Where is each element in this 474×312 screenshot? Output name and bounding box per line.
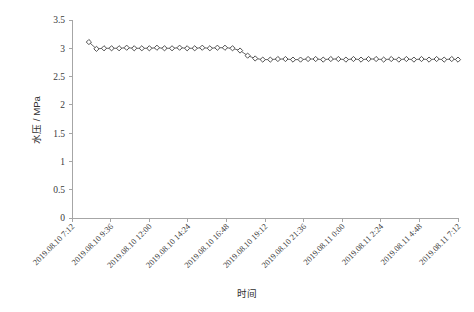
data-point-marker	[192, 46, 197, 51]
data-point-marker	[343, 57, 348, 62]
data-point-marker	[396, 57, 401, 62]
data-point-marker	[162, 46, 167, 51]
y-axis-title: 水压 / MPa	[31, 95, 42, 143]
data-point-marker	[245, 53, 250, 58]
y-tick-label: 3	[60, 44, 65, 54]
x-axis-title: 时间	[237, 288, 257, 299]
data-point-marker	[139, 46, 144, 51]
y-tick-label: 0	[60, 213, 65, 223]
data-point-marker	[268, 57, 273, 62]
data-point-marker	[374, 56, 379, 61]
data-point-marker	[200, 45, 205, 50]
series-line-水压	[89, 42, 458, 60]
data-point-marker	[411, 57, 416, 62]
y-tick-label: 1	[60, 157, 65, 167]
data-point-marker	[215, 45, 220, 50]
data-point-marker	[230, 46, 235, 51]
data-point-marker	[124, 45, 129, 50]
data-point-marker	[260, 57, 265, 62]
data-point-marker	[109, 46, 114, 51]
data-point-marker	[185, 46, 190, 51]
data-point-marker	[351, 56, 356, 61]
data-point-marker	[389, 56, 394, 61]
data-point-marker	[419, 56, 424, 61]
y-tick-label: 2	[60, 100, 65, 110]
chart-figure: 00.511.522.533.5 2019.08.10 7:122019.08.…	[0, 0, 474, 312]
data-point-marker	[366, 56, 371, 61]
y-tick-label: 1.5	[53, 129, 65, 139]
data-point-marker	[290, 57, 295, 62]
data-point-marker	[449, 56, 454, 61]
data-point-marker	[358, 57, 363, 62]
data-point-marker	[336, 56, 341, 61]
data-point-marker	[426, 57, 431, 62]
data-point-marker	[275, 56, 280, 61]
data-point-marker	[381, 57, 386, 62]
y-axis: 00.511.522.533.5	[53, 15, 72, 223]
data-point-marker	[442, 57, 447, 62]
data-point-marker	[207, 46, 212, 51]
data-point-marker	[298, 57, 303, 62]
data-point-marker	[154, 45, 159, 50]
data-point-marker	[321, 57, 326, 62]
hydraulic-pressure-line-chart: 00.511.522.533.5 2019.08.10 7:122019.08.…	[0, 0, 474, 312]
data-point-marker	[306, 56, 311, 61]
x-axis: 2019.08.10 7:122019.08.10 9:362019.08.10…	[31, 218, 462, 270]
data-point-marker	[132, 46, 137, 51]
data-point-marker	[283, 56, 288, 61]
data-point-marker	[313, 56, 318, 61]
data-point-marker	[222, 45, 227, 50]
data-point-marker	[253, 56, 258, 61]
data-point-marker	[169, 46, 174, 51]
data-point-marker	[101, 46, 106, 51]
data-point-marker	[177, 45, 182, 50]
data-point-marker	[117, 46, 122, 51]
data-series	[86, 39, 460, 62]
y-tick-label: 3.5	[53, 15, 65, 25]
data-point-marker	[328, 56, 333, 61]
y-tick-label: 2.5	[53, 72, 65, 82]
x-tick-label: 2019.08.11 7:12	[418, 222, 463, 267]
data-point-marker	[434, 56, 439, 61]
data-point-marker	[237, 48, 242, 53]
data-point-marker	[147, 46, 152, 51]
y-tick-label: 0.5	[53, 185, 65, 195]
data-point-marker	[455, 57, 460, 62]
data-point-marker	[404, 56, 409, 61]
